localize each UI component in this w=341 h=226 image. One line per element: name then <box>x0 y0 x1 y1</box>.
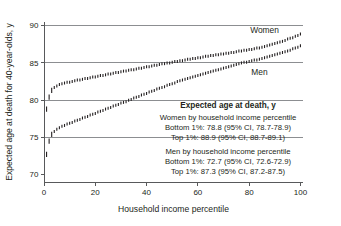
chart-figure: 7075808590020406080100Household income p… <box>0 0 341 226</box>
legend-women-top: Top 1%: 88.9 (95% CI, 88.7-89.1) <box>171 133 286 142</box>
y-tick-label-70: 70 <box>30 170 39 179</box>
scatter-chart: 7075808590020406080100Household income p… <box>0 0 341 226</box>
legend-men-bottom: Bottom 1%: 72.7 (95% CI, 72.6-72.9) <box>165 157 291 166</box>
y-tick-label-75: 75 <box>30 133 39 142</box>
y-tick-label-85: 85 <box>30 59 39 68</box>
x-tick-label-60: 60 <box>193 188 202 197</box>
series-label-women: Women <box>250 25 279 35</box>
x-tick-label-80: 80 <box>245 188 254 197</box>
x-axis-title: Household income percentile <box>118 204 229 214</box>
legend-header: Expected age at death, y <box>180 101 276 110</box>
legend-men-heading: Men by household income percentile <box>165 147 290 156</box>
y-tick-label-80: 80 <box>30 96 39 105</box>
x-tick-label-0: 0 <box>42 188 47 197</box>
x-tick-label-100: 100 <box>294 188 308 197</box>
legend-women-bottom: Bottom 1%: 78.8 (95% CI, 78.7-78.9) <box>165 123 291 132</box>
x-tick-label-40: 40 <box>142 188 151 197</box>
legend-women-heading: Women by household income percentile <box>160 113 297 122</box>
x-tick-label-20: 20 <box>91 188 100 197</box>
y-axis-title: Expected age at death for 40-year-olds, … <box>4 22 14 180</box>
y-tick-label-90: 90 <box>30 21 39 30</box>
legend-men-top: Top 1%: 87.3 (95% CI, 87.2-87.5) <box>171 167 286 176</box>
series-label-men: Men <box>251 67 268 77</box>
